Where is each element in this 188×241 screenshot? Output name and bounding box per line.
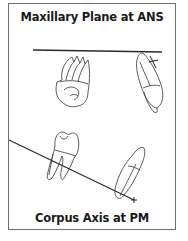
lower-molar-icon	[47, 132, 79, 180]
dental-diagram	[0, 0, 188, 241]
corpus-axis-line	[9, 140, 134, 200]
upper-incisor-icon	[137, 53, 163, 113]
lower-incisor-icon	[115, 147, 145, 198]
corpus-axis-plus-marker	[131, 197, 137, 203]
maxillary-plane-line	[33, 50, 162, 52]
upper-molar-icon	[56, 56, 89, 107]
